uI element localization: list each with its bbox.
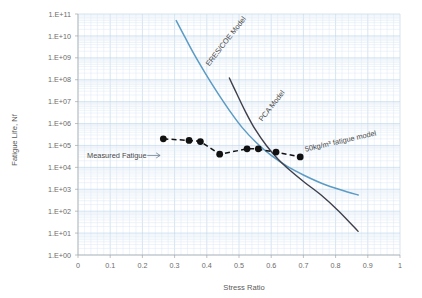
data-point-marker [244,145,251,152]
x-tick-label: 1 [398,261,402,270]
y-tick-label: 1.E+08 [48,75,71,84]
x-tick-label: 0.3 [170,261,180,270]
y-tick-label: 1.E+03 [48,185,71,194]
data-point-marker [273,149,280,156]
data-point-marker [216,151,223,158]
y-tick-label: 1.E+07 [48,97,71,106]
y-tick-label: 1.E+09 [48,53,71,62]
x-tick-label: 0.2 [137,261,147,270]
data-point-marker [197,138,204,145]
x-tick-label: 0.5 [234,261,244,270]
annotation-measured-fatigue: Measured Fatigue [87,151,147,160]
y-tick-label: 1.E+01 [48,229,71,238]
y-tick-label: 1.E+02 [48,207,71,216]
x-tick-label: 0 [76,261,80,270]
data-point-marker [160,135,167,142]
x-axis-title: Stress Ratio [223,283,264,292]
data-point-marker [297,154,304,161]
x-tick-label: 0.1 [105,261,115,270]
x-tick-label: 0.4 [202,261,212,270]
y-tick-label: 1.E+10 [48,32,71,41]
x-tick-label: 0.8 [331,261,341,270]
data-point-marker [255,145,262,152]
chart-canvas: 1.E+001.E+011.E+021.E+031.E+041.E+051.E+… [0,0,422,298]
y-tick-label: 1.E+00 [48,251,71,260]
y-tick-label: 1.E+11 [49,10,71,19]
y-tick-label: 1.E+05 [48,141,71,150]
fatigue-life-chart: 1.E+001.E+011.E+021.E+031.E+041.E+051.E+… [0,0,422,298]
x-tick-label: 0.7 [298,261,308,270]
y-tick-label: 1.E+04 [48,163,71,172]
y-axis-title: Fatigue Life, Nf [10,113,19,165]
x-tick-label: 0.6 [266,261,276,270]
data-point-marker [186,137,193,144]
y-tick-label: 1.E+06 [48,119,71,128]
x-tick-label: 0.9 [363,261,373,270]
